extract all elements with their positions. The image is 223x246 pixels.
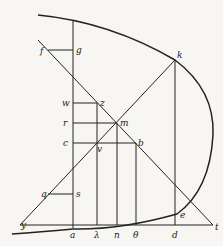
label-t: t (215, 222, 219, 232)
label-c: c (63, 138, 68, 148)
label-v: v (97, 144, 102, 154)
label-a: a (70, 230, 75, 240)
label-z: z (99, 98, 105, 108)
label-w: w (62, 98, 70, 108)
label-theta: θ (133, 230, 139, 240)
label-f: f (39, 46, 45, 56)
label-r: r (63, 118, 68, 128)
label-k: k (177, 50, 182, 60)
label-y: y (20, 220, 27, 230)
label-lambda: λ (93, 230, 100, 240)
label-g: g (76, 45, 82, 55)
label-e: e (180, 210, 185, 220)
geometric-diagram: f g k w z r m c v b q s e y a λ n θ d t (0, 0, 223, 246)
label-m: m (120, 118, 129, 128)
label-b: b (138, 138, 144, 148)
label-s: s (76, 189, 81, 199)
line-f-t (38, 40, 213, 225)
label-n: n (114, 230, 120, 240)
label-q: q (41, 189, 47, 199)
label-d: d (172, 230, 178, 240)
